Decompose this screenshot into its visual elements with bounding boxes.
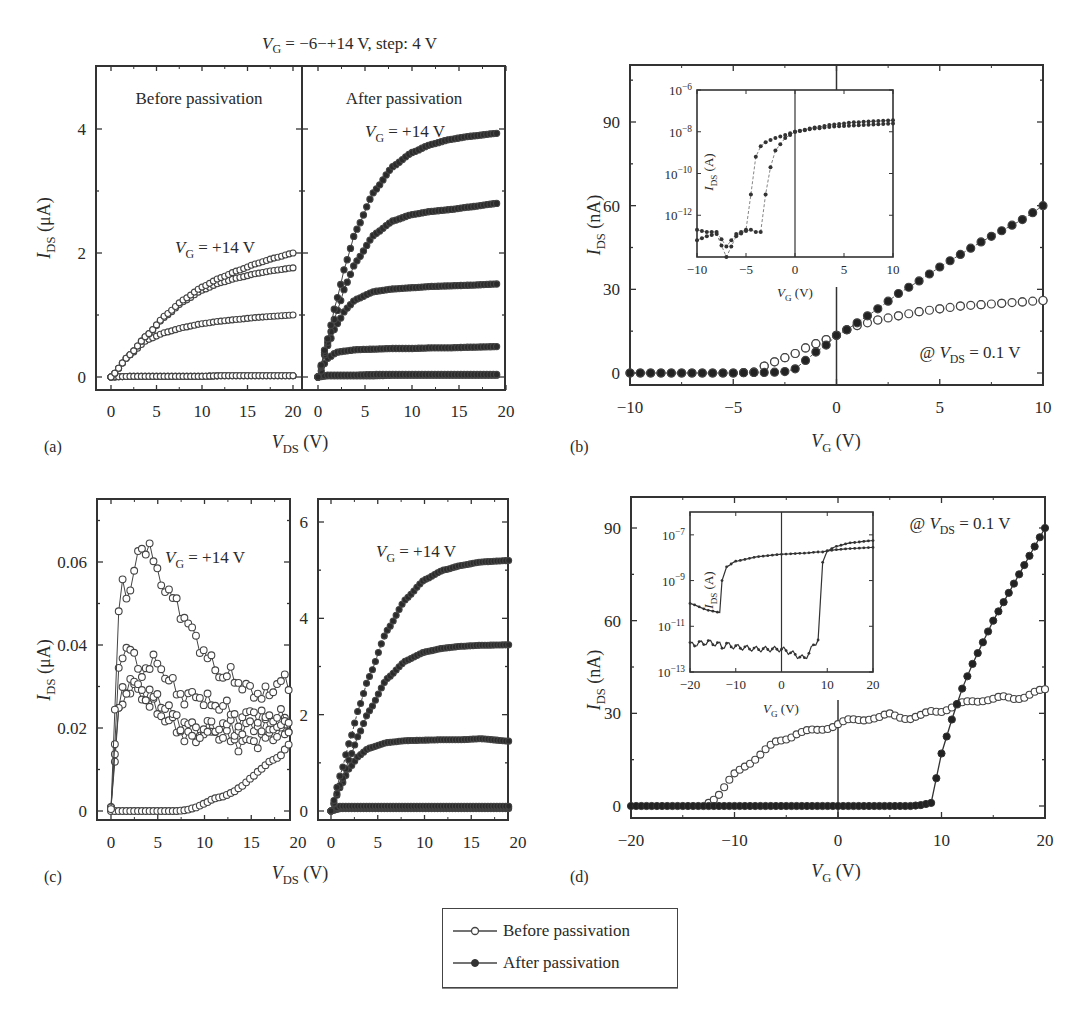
inset-data-point	[780, 648, 783, 651]
inset-data-point	[842, 121, 846, 125]
inset-data-point	[840, 548, 843, 551]
open-data-point	[154, 565, 161, 572]
inset-data-point	[821, 561, 824, 564]
open-data-point	[254, 719, 261, 726]
tick-label: 10−6	[669, 82, 692, 98]
filled-data-point	[894, 290, 902, 298]
open-data-point	[154, 691, 161, 698]
filled-data-point	[355, 734, 361, 740]
inset-data-point	[872, 539, 875, 542]
inset-data-point	[757, 555, 760, 558]
filled-data-point	[349, 732, 355, 738]
open-data-point	[998, 299, 1006, 307]
y-tick-label: 0.02	[57, 719, 87, 738]
open-data-point	[200, 702, 207, 709]
open-data-point	[189, 732, 196, 739]
open-data-point	[216, 726, 223, 733]
open-data-point	[146, 540, 153, 547]
open-data-point	[193, 632, 200, 639]
open-data-point	[250, 738, 257, 745]
open-data-point	[894, 312, 902, 320]
filled-data-point	[349, 751, 355, 757]
legend-label-before: Before passivation	[503, 921, 630, 941]
inset-data-point	[798, 656, 801, 659]
filled-data-point	[791, 365, 799, 373]
open-data-point	[196, 735, 203, 742]
series-line	[331, 739, 509, 811]
filled-data-point	[636, 369, 644, 377]
open-data-point	[208, 652, 215, 659]
inset-data-point	[748, 648, 751, 651]
filled-data-point	[956, 250, 964, 258]
annotation-vg-right: VG = +14 V	[376, 542, 457, 565]
panel-c: 005510101515202000.020.040.060246VG = +1…	[34, 499, 527, 887]
open-data-point	[196, 695, 203, 702]
tick-label: 10−7	[662, 527, 685, 543]
filled-data-point	[1010, 580, 1017, 587]
inset-data-point	[876, 119, 880, 123]
filled-data-point	[915, 277, 923, 285]
open-data-point	[111, 741, 118, 748]
filled-data-point	[1041, 524, 1048, 531]
open-data-point	[1008, 299, 1016, 307]
open-data-point	[1029, 297, 1037, 305]
open-data-point	[254, 745, 261, 752]
open-data-point	[123, 690, 130, 697]
filled-data-point	[1026, 552, 1033, 559]
inset-data-point	[753, 647, 756, 650]
filled-data-point	[647, 369, 655, 377]
inset-data-point	[793, 130, 797, 134]
filled-data-point	[729, 369, 737, 377]
inset-data-point	[739, 647, 742, 650]
y-tick-label: 60	[603, 197, 620, 216]
open-data-point	[138, 687, 145, 694]
filled-data-point	[938, 750, 945, 757]
inset-x-tick-label: 0	[778, 677, 785, 692]
y-tick-label: 2	[300, 706, 309, 725]
filled-data-point	[390, 618, 396, 624]
y-axis-label: IDS (μA)	[34, 639, 58, 701]
filled-data-point	[321, 347, 327, 353]
filled-data-point	[948, 716, 955, 723]
annotation-vds: @ VDS = 0.1 V	[919, 343, 1021, 366]
inset-data-point	[832, 122, 836, 126]
open-data-point	[119, 684, 126, 691]
filled-data-point	[334, 784, 340, 790]
inset-data-point	[739, 232, 743, 236]
filled-data-point	[984, 628, 991, 635]
inset-data-point	[844, 543, 847, 546]
inset-data-point	[794, 552, 797, 555]
x-tick-label: 10	[933, 831, 950, 850]
filled-data-point	[346, 741, 352, 747]
filled-data-point	[1031, 543, 1038, 550]
inset-data-point	[721, 647, 724, 650]
filled-data-point	[372, 658, 378, 664]
filled-data-point	[494, 200, 500, 206]
inset-data-point	[716, 641, 719, 644]
inset-data-point	[764, 140, 768, 144]
inset-data-point	[778, 142, 782, 146]
filled-data-point	[338, 315, 344, 321]
inset-x-tick-label: 10	[821, 677, 834, 692]
inset-data-point	[739, 559, 742, 562]
inset-data-point	[821, 551, 824, 554]
inset-x-axis-label: VG (V)	[777, 285, 813, 303]
inset-x-tick-label: −20	[680, 677, 700, 692]
y-tick-label: 0	[612, 364, 621, 383]
open-data-point	[146, 703, 153, 710]
filled-data-point	[331, 306, 337, 312]
filled-data-point	[340, 764, 346, 770]
open-data-point	[131, 649, 138, 656]
filled-data-point	[987, 232, 995, 240]
inset-data-point	[734, 644, 737, 647]
inset-data-point	[773, 149, 777, 153]
inset-data-point	[762, 647, 765, 650]
open-data-point	[177, 727, 184, 734]
open-data-point	[204, 690, 211, 697]
inset-data-point	[812, 643, 815, 646]
legend-item-before: Before passivation	[453, 919, 630, 943]
inset-data-point	[771, 648, 774, 651]
inset-data-point	[715, 232, 719, 236]
filled-data-point	[760, 368, 768, 376]
filled-data-point	[357, 220, 363, 226]
